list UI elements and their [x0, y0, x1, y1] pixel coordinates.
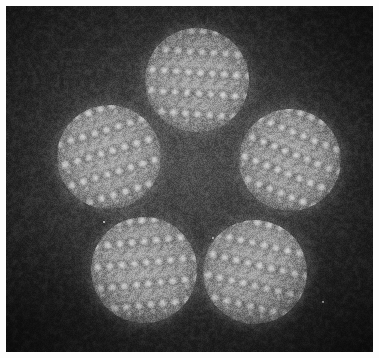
- particle-edge-falloff: [239, 109, 341, 211]
- bright-speck: [103, 221, 105, 223]
- nanoparticle-left: [57, 105, 161, 209]
- nanoparticle-right: [239, 109, 341, 211]
- nanoparticle-bottom-left: [91, 217, 197, 323]
- particle-edge-falloff: [91, 217, 197, 323]
- electron-micrograph-field: [6, 6, 373, 352]
- micrograph-stage: [0, 0, 379, 358]
- particle-edge-falloff: [203, 220, 307, 324]
- particle-edge-falloff: [57, 105, 161, 209]
- nanoparticle-bottom-right: [203, 220, 307, 324]
